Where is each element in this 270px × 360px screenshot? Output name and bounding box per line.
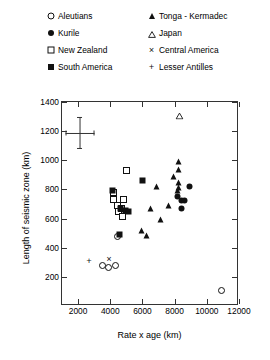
- data-point: [177, 191, 186, 200]
- x-marker-icon: ×: [145, 44, 158, 57]
- data-point: [119, 234, 128, 243]
- x-tick-top: [207, 102, 208, 107]
- legend-label: Aleutians: [58, 12, 92, 20]
- legend-label: New Zealand: [58, 46, 107, 54]
- y-tick-right: [232, 277, 237, 278]
- legend-label: Japan: [159, 29, 182, 37]
- x-tick-label: 4000: [101, 307, 120, 315]
- y-tick-label: 1000: [40, 156, 59, 164]
- x-tick: [239, 299, 240, 304]
- y-tick: [62, 248, 67, 249]
- data-point: [112, 191, 121, 200]
- data-point: [160, 220, 169, 229]
- y-tick-label: 800: [45, 185, 59, 193]
- y-tick-label: 1400: [40, 98, 59, 106]
- legend-item-new-zealand: New Zealand: [44, 42, 107, 58]
- data-point: [180, 115, 189, 124]
- data-layer: ×+: [62, 102, 237, 304]
- x-tick-label: 10000: [195, 307, 218, 315]
- data-point: [169, 205, 178, 214]
- data-point: [156, 186, 165, 195]
- y-tick-label: 400: [45, 244, 59, 252]
- y-tick-right: [232, 102, 237, 103]
- data-point: +: [89, 262, 98, 271]
- y-axis-label: Length of seismic zone (km): [21, 138, 31, 278]
- legend-item-tonga-kermadec: Tonga - Kermadec: [145, 8, 227, 24]
- x-tick-top: [110, 102, 111, 107]
- y-tick-right: [232, 160, 237, 161]
- y-tick-label: 200: [45, 273, 59, 281]
- x-tick-label: 12000: [227, 307, 250, 315]
- legend-item-aleutians: Aleutians: [44, 8, 92, 24]
- x-tick-top: [78, 102, 79, 107]
- x-axis-label: Rate x age (km): [61, 330, 238, 340]
- data-point: [127, 170, 136, 179]
- y-tick: [62, 102, 67, 103]
- y-tick-right: [232, 189, 237, 190]
- x-tick-label: 2000: [69, 307, 88, 315]
- legend-item-south-america: South America: [44, 59, 112, 75]
- data-point: [146, 235, 155, 244]
- data-point: [179, 170, 188, 179]
- x-tick-label: 6000: [133, 307, 152, 315]
- legend-label: Kurile: [58, 29, 79, 37]
- data-point: [128, 211, 137, 220]
- x-tick: [110, 299, 111, 304]
- open-circle-marker-icon: [44, 10, 57, 23]
- y-tick: [62, 131, 67, 132]
- legend-label: Central America: [159, 46, 219, 54]
- x-tick: [175, 299, 176, 304]
- data-point: [151, 208, 160, 217]
- y-tick: [62, 219, 67, 220]
- data-point: [189, 186, 198, 195]
- filled-triangle-marker-icon: [145, 10, 158, 23]
- error-bar: [65, 117, 94, 149]
- chart-legend: AleutiansKurileNew ZealandSouth AmericaT…: [0, 8, 270, 80]
- y-tick: [62, 189, 67, 190]
- data-point: [143, 181, 152, 190]
- legend-item-kurile: Kurile: [44, 25, 79, 41]
- y-tick: [62, 160, 67, 161]
- y-tick-right: [232, 219, 237, 220]
- legend-item-central-america: ×Central America: [145, 42, 219, 58]
- x-tick: [142, 299, 143, 304]
- plus-marker-icon: +: [145, 61, 158, 74]
- data-point: [222, 291, 231, 300]
- x-tick: [78, 299, 79, 304]
- legend-item-japan: Japan: [145, 25, 182, 41]
- legend-label: South America: [58, 63, 112, 71]
- x-tick-top: [175, 102, 176, 107]
- filled-square-marker-icon: [44, 61, 57, 74]
- filled-circle-marker-icon: [44, 27, 57, 40]
- y-tick-right: [232, 131, 237, 132]
- y-tick-label: 600: [45, 214, 59, 222]
- open-triangle-marker-icon: [145, 27, 158, 40]
- x-tick-top: [239, 102, 240, 107]
- plot-area: ×+ 2004006008001000120014002000400060008…: [61, 101, 238, 305]
- x-tick-label: 8000: [165, 307, 184, 315]
- x-tick: [207, 299, 208, 304]
- figure: AleutiansKurileNew ZealandSouth AmericaT…: [0, 0, 270, 360]
- data-point: ×: [109, 260, 118, 269]
- x-tick-top: [142, 102, 143, 107]
- legend-item-lesser-antilles: +Lesser Antilles: [145, 59, 213, 75]
- y-tick: [62, 277, 67, 278]
- legend-label: Tonga - Kermadec: [159, 12, 227, 20]
- y-tick-right: [232, 248, 237, 249]
- y-tick-label: 1200: [40, 127, 59, 135]
- legend-label: Lesser Antilles: [159, 63, 213, 71]
- open-square-marker-icon: [44, 44, 57, 57]
- data-point: [181, 208, 190, 217]
